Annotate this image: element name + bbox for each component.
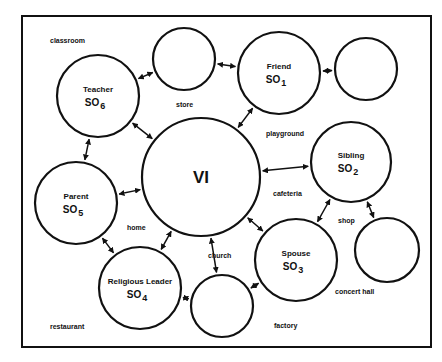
place-label-shop: shop <box>338 217 355 225</box>
arrow-sibling-spouse <box>318 199 330 221</box>
place-label-classroom: classroom <box>50 37 85 44</box>
arrow-center-spouse <box>248 218 263 231</box>
place-label-home: home <box>127 224 146 231</box>
arrow-teacher-center <box>133 123 153 138</box>
social-network-diagram: VIFriendSO1SiblingSO2SpouseSO3Religious … <box>0 0 442 362</box>
arrow-teacher-parent <box>85 139 89 160</box>
sibling-role-label: Sibling <box>338 151 365 160</box>
arrow-parent-religious-leader <box>102 238 113 253</box>
friend-role-label: Friend <box>267 62 292 71</box>
parent-role-label: Parent <box>64 192 89 201</box>
teacher-role-label: Teacher <box>83 85 113 94</box>
empty-right-circle <box>355 218 419 282</box>
religious-leader-role-label: Religious Leader <box>108 277 172 286</box>
empty-bottom-circle <box>191 275 253 337</box>
arrow-friend-center <box>238 108 252 127</box>
parent-circle <box>35 162 117 244</box>
place-label-cafeteria: cafeteria <box>273 190 302 197</box>
arrow-religious-leader-empty-bottom <box>183 297 189 298</box>
place-label-concert-hall: concert hall <box>335 288 374 295</box>
spouse-circle <box>255 219 337 301</box>
sibling-circle <box>311 122 391 202</box>
spouse-role-label: Spouse <box>282 249 311 258</box>
place-label-playground: playground <box>266 130 304 138</box>
place-label-church: church <box>208 252 231 259</box>
arrow-empty-top-friend <box>218 64 236 67</box>
religious-leader-circle <box>99 247 181 329</box>
arrow-sibling-empty-right <box>367 202 373 218</box>
place-label-restaurant: restaurant <box>50 323 85 330</box>
vi-label: VI <box>193 168 209 187</box>
arrow-sibling-center <box>263 166 309 171</box>
arrow-empty-bottom-spouse <box>251 283 259 288</box>
place-label-store: store <box>176 101 193 108</box>
friend-circle <box>238 32 320 114</box>
arrow-parent-center <box>119 190 140 194</box>
empty-top-right-circle <box>335 38 397 100</box>
arrow-teacher-empty-top <box>138 72 152 78</box>
arrow-religious-leader-center <box>161 231 171 249</box>
teacher-circle <box>57 55 139 137</box>
place-label-factory: factory <box>274 322 297 330</box>
empty-top-circle <box>153 28 215 90</box>
